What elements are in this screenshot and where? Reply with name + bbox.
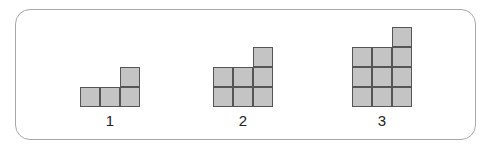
figure-label-1: 1 bbox=[80, 112, 140, 129]
square-tile bbox=[213, 87, 233, 107]
square-tile bbox=[233, 87, 253, 107]
square-tile bbox=[372, 67, 392, 87]
square-tile bbox=[120, 67, 140, 87]
square-tile bbox=[253, 67, 273, 87]
square-tile bbox=[80, 87, 100, 107]
square-tile bbox=[392, 27, 412, 47]
square-tile bbox=[233, 67, 253, 87]
square-tile bbox=[392, 67, 412, 87]
square-tile bbox=[213, 67, 233, 87]
square-tile bbox=[372, 87, 392, 107]
square-tile bbox=[372, 47, 392, 67]
square-tile bbox=[392, 47, 412, 67]
square-tile bbox=[253, 87, 273, 107]
figure-label-2: 2 bbox=[213, 112, 273, 129]
square-tile bbox=[392, 87, 412, 107]
square-tile bbox=[120, 87, 140, 107]
square-tile bbox=[253, 47, 273, 67]
square-tile bbox=[352, 87, 372, 107]
figure-label-3: 3 bbox=[352, 112, 412, 129]
square-tile bbox=[100, 87, 120, 107]
square-tile bbox=[352, 67, 372, 87]
square-tile bbox=[352, 47, 372, 67]
